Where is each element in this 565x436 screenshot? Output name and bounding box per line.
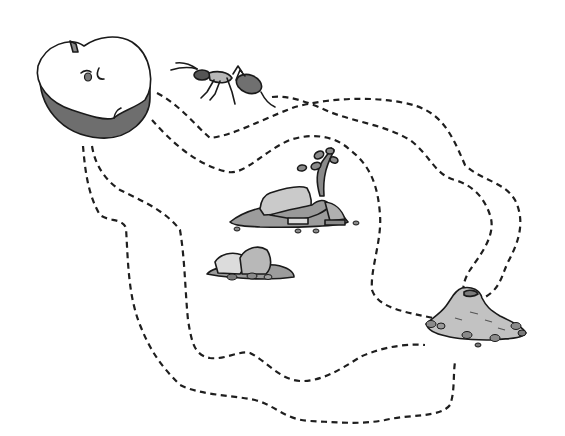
ant-head bbox=[194, 70, 210, 80]
apple-seed-icon bbox=[85, 73, 92, 81]
pebble bbox=[264, 275, 272, 280]
anthill-pebble bbox=[462, 332, 472, 339]
anthill-pebble bbox=[518, 330, 526, 336]
rock-slab bbox=[288, 218, 308, 224]
ant-leg-icon bbox=[201, 80, 214, 98]
pebble bbox=[295, 229, 301, 233]
maze-path-5[interactable]: Path from apple to anthill (bottom) bbox=[83, 146, 455, 423]
pebble bbox=[247, 273, 257, 279]
ant-leg-icon bbox=[227, 78, 235, 104]
leaf-icon bbox=[326, 148, 334, 154]
ant[interactable] bbox=[171, 63, 275, 107]
pebble bbox=[353, 221, 359, 225]
anthill-pebble bbox=[475, 343, 481, 347]
rock-slab bbox=[325, 220, 345, 225]
anthill-pebble bbox=[426, 321, 436, 328]
pebble bbox=[313, 229, 319, 233]
maze-path-2[interactable]: Path from apple to anthill (upper) bbox=[157, 93, 520, 300]
pebble bbox=[234, 227, 240, 231]
pebble bbox=[227, 274, 237, 280]
anthill[interactable] bbox=[426, 287, 526, 347]
anthill-hole-icon bbox=[464, 290, 478, 296]
leaf-icon bbox=[297, 164, 307, 171]
ant-tail-line bbox=[261, 92, 275, 107]
anthill-pebble bbox=[511, 323, 521, 330]
plant-rock-pile[interactable] bbox=[230, 148, 359, 233]
maze-illustration: Path from ant to anthill (top) Path from… bbox=[0, 0, 565, 436]
rock-right bbox=[240, 247, 271, 274]
small-rock-pile[interactable] bbox=[207, 247, 294, 280]
maze-paths: Path from ant to anthill (top) Path from… bbox=[83, 93, 520, 423]
rock-left bbox=[215, 253, 244, 274]
anthill-pebble bbox=[490, 335, 500, 342]
leaf-icon bbox=[329, 156, 339, 164]
anthill-pebble bbox=[437, 323, 445, 329]
apple[interactable] bbox=[37, 37, 150, 138]
ant-antenna-icon bbox=[171, 67, 197, 70]
